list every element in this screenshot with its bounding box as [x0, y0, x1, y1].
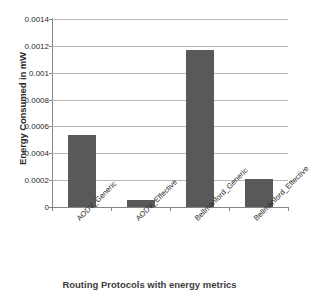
x-category-label: AODV_Effective [133, 216, 139, 222]
x-axis-category-labels: AODV_GenericAODV_EffectiveBellmanford_Ge… [0, 207, 299, 269]
y-tick-label: 0.0002 [3, 176, 49, 185]
x-category-label: AODV_Generic [74, 216, 80, 222]
y-tick-label: 0.001 [3, 68, 49, 77]
x-category-label: Bellmanford_Generic [192, 216, 198, 222]
y-tick-label: 0.0006 [3, 122, 49, 131]
x-category-label: Bellmanford_Effective [251, 216, 257, 222]
y-tick-label: 0.0008 [3, 95, 49, 104]
y-axis-ticks: 00.00020.00040.00060.00080.0010.00120.00… [0, 19, 49, 207]
bar [186, 50, 214, 207]
bar [68, 135, 96, 208]
y-tick-label: 0.0012 [3, 41, 49, 50]
x-axis-title: Routing Protocols with energy metrics [0, 279, 299, 290]
y-tick-label: 0.0004 [3, 149, 49, 158]
y-tick-label: 0.0014 [3, 15, 49, 24]
